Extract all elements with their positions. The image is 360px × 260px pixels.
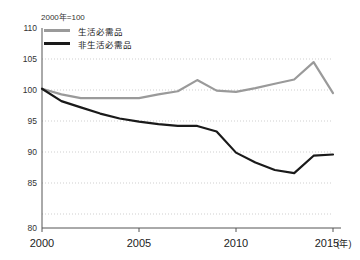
legend-item-non-necessities: 非生活必需品 (44, 37, 132, 50)
x-tick-2005: 2005 (127, 237, 151, 249)
y-tick-100: 100 (23, 85, 37, 95)
y-tick-105: 105 (23, 54, 37, 64)
legend-item-necessities: 生活必需品 (44, 24, 132, 37)
legend-label-necessities: 生活必需品 (78, 25, 123, 37)
y-tick-80: 80 (28, 223, 38, 233)
legend-label-non-necessities: 非生活必需品 (78, 38, 132, 50)
index-base-note: 2000年=100 (41, 11, 85, 22)
x-axis-ticks (42, 228, 333, 232)
series-line-non-necessities (42, 89, 333, 173)
x-tick-2010: 2010 (224, 237, 248, 249)
y-axis-labels: 110 105 100 95 90 85 80 (23, 23, 37, 233)
y-tick-85: 85 (28, 178, 38, 188)
x-axis-labels: 2000 2005 2010 2015 (年) (30, 237, 352, 249)
x-axis-unit-label: (年) (337, 238, 352, 249)
y-tick-90: 90 (28, 147, 38, 157)
y-tick-95: 95 (28, 116, 38, 126)
x-tick-2000: 2000 (30, 237, 54, 249)
gridlines (42, 59, 333, 214)
series-line-necessities (42, 62, 333, 98)
chart-legend: 生活必需品 非生活必需品 (44, 24, 132, 50)
y-tick-110: 110 (23, 23, 37, 33)
legend-swatch-icon-non-necessities (44, 42, 70, 45)
chart-container: 110 105 100 95 90 85 80 2000 2005 2010 2… (0, 0, 360, 260)
legend-swatch-icon-necessities (44, 29, 70, 32)
